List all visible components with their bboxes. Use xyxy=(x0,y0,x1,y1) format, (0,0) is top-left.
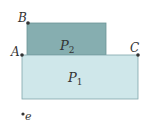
point-c-label: C xyxy=(130,41,139,55)
point-e-label: e xyxy=(25,110,32,123)
region-diagram: P2 P1 A B C e xyxy=(0,0,150,130)
point-a-label: A xyxy=(10,45,20,59)
point-a-dot xyxy=(20,53,24,57)
point-b-label: B xyxy=(17,11,27,25)
